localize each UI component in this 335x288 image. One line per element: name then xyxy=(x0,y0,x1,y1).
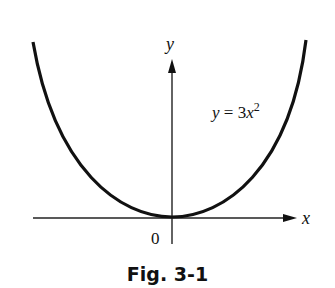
x-axis-label: x xyxy=(301,208,310,228)
origin-label: 0 xyxy=(151,229,160,248)
parabola-curve xyxy=(33,40,306,217)
y-axis-arrow-icon xyxy=(168,59,176,73)
y-axis-label: y xyxy=(164,34,174,54)
x-axis-arrow-icon xyxy=(283,214,297,222)
parabola-diagram: y x 0 y = 3x2 xyxy=(0,0,335,288)
equation-label: y = 3x2 xyxy=(210,100,260,122)
figure-caption: Fig. 3-1 xyxy=(0,263,335,285)
